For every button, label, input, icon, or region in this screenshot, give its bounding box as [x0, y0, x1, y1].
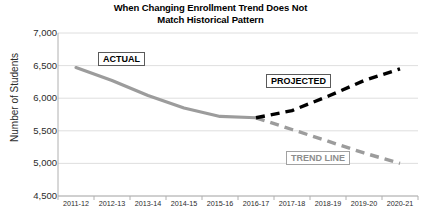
annotation-projected: PROJECTED — [266, 74, 331, 88]
annotation-trend-line: TREND LINE — [286, 151, 350, 165]
x-tick-label: 2012-13 — [94, 199, 130, 208]
x-tick-label: 2017-18 — [274, 199, 310, 208]
x-tick-label: 2013-14 — [130, 199, 166, 208]
annotation-actual: ACTUAL — [98, 52, 145, 66]
x-tick-label: 2014-15 — [166, 199, 202, 208]
x-tick-label: 2019-20 — [346, 199, 382, 208]
x-tick-label: 2020-21 — [382, 199, 418, 208]
x-tick-label: 2016-17 — [238, 199, 274, 208]
plot-area — [0, 0, 421, 219]
x-tick-label: 2018-19 — [310, 199, 346, 208]
x-tick-label: 2011-12 — [58, 199, 94, 208]
chart-container: When Changing Enrollment Trend Does Not … — [0, 0, 421, 219]
x-tick-label: 2015-16 — [202, 199, 238, 208]
data-series-layer — [76, 68, 400, 164]
series-line-actual — [76, 68, 256, 118]
